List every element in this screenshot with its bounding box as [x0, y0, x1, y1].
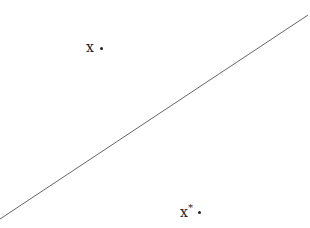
point-x-star-dot — [198, 211, 201, 214]
point-x-text: x — [86, 39, 94, 55]
point-x-dot — [100, 47, 103, 50]
point-x-star-superscript: * — [188, 202, 193, 213]
point-x-star-text: x — [180, 204, 188, 220]
diagram-canvas — [0, 0, 310, 228]
point-x-star-label: x* — [180, 205, 193, 219]
point-x-label: x — [86, 40, 94, 54]
separating-line — [0, 15, 308, 219]
